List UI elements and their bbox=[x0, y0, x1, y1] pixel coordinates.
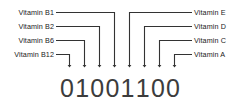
leader-vitamin-b2 bbox=[56, 27, 100, 67]
bit-6: 0 bbox=[151, 76, 165, 101]
leader-vitamin-a bbox=[175, 55, 193, 67]
bit-3: 0 bbox=[105, 76, 119, 101]
leader-vitamin-d bbox=[145, 27, 193, 67]
bit-4: 1 bbox=[121, 76, 135, 101]
diagram-canvas: Vitamin B1 Vitamin B2 Vitamin B6 Vitamin… bbox=[0, 0, 236, 107]
bit-0: 0 bbox=[60, 76, 74, 101]
bit-7: 0 bbox=[166, 76, 180, 101]
bit-5: 1 bbox=[136, 76, 150, 101]
bit-1: 1 bbox=[75, 76, 89, 101]
bit-2: 0 bbox=[90, 76, 104, 101]
leader-vitamin-b1 bbox=[56, 13, 115, 67]
leader-vitamin-b12 bbox=[56, 55, 70, 67]
leader-vitamin-b6 bbox=[56, 41, 85, 67]
bit-string: 0 1 0 0 1 1 0 0 bbox=[60, 76, 180, 101]
leader-vitamin-c bbox=[160, 41, 193, 67]
leader-vitamin-e bbox=[130, 13, 193, 67]
